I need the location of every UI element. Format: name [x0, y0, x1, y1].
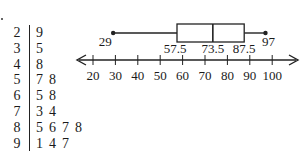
number-line-axis: 2030405060708090100 [77, 55, 298, 83]
iqr-box [177, 24, 244, 42]
tick-label: 20 [87, 68, 100, 83]
tick-label: 30 [109, 68, 122, 83]
tick-label: 50 [154, 68, 167, 83]
q1-label: 57.5 [164, 41, 187, 56]
median-label: 73.5 [201, 41, 224, 56]
box-plot: 2030405060708090100 2957.573.587.597 [0, 0, 301, 161]
max-label: 97 [262, 34, 276, 49]
tick-label: 80 [221, 68, 234, 83]
box-and-whisker: 2957.573.587.597 [99, 24, 276, 56]
min-label: 29 [99, 34, 112, 49]
tick-label: 70 [199, 68, 212, 83]
q3-label: 87.5 [233, 41, 256, 56]
tick-label: 60 [176, 68, 189, 83]
tick-label: 40 [131, 68, 144, 83]
tick-label: 90 [243, 68, 256, 83]
tick-label: 100 [262, 68, 282, 83]
